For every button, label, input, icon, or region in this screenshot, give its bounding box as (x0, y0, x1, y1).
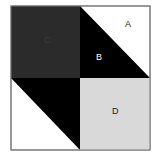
label-d: D (112, 106, 119, 116)
label-a: A (125, 19, 131, 29)
label-c: C (44, 35, 51, 45)
square-diagram: C A B D (0, 0, 156, 159)
label-b: B (96, 52, 102, 62)
